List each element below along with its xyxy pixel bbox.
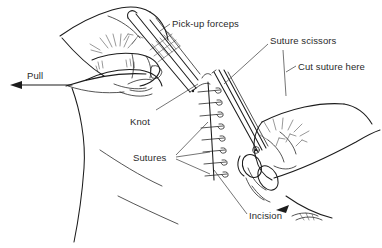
pull-label: Pull bbox=[27, 70, 43, 81]
pull-arrow bbox=[10, 81, 72, 89]
knot-label: Knot bbox=[130, 116, 150, 127]
suture-scissors bbox=[212, 70, 282, 194]
suture-removal-illustration: Pull bbox=[0, 0, 382, 248]
incision-with-sutures bbox=[194, 74, 228, 180]
leader-suture-scissors bbox=[224, 44, 268, 84]
incision-line bbox=[208, 82, 214, 180]
hand-hair-texture bbox=[90, 34, 143, 53]
cut-marker-vertical bbox=[283, 50, 286, 96]
right-hand-holding-scissors bbox=[238, 104, 380, 202]
cut-suture-here-label: Cut suture here bbox=[298, 61, 365, 72]
incision-label: Incision bbox=[249, 210, 282, 221]
skin-fold-left bbox=[66, 74, 152, 93]
leader-incision bbox=[214, 170, 247, 214]
leader-sutures-3 bbox=[176, 159, 210, 174]
lower-right-detail-arrow bbox=[276, 196, 332, 220]
right-hand-hair-texture bbox=[260, 118, 309, 146]
sutures-label: Sutures bbox=[133, 152, 167, 163]
leader-sutures-1 bbox=[176, 122, 208, 155]
suture-scissors-label: Suture scissors bbox=[270, 35, 337, 46]
label-leader-lines bbox=[156, 24, 296, 214]
pick-up-forceps-label: Pick-up forceps bbox=[172, 18, 239, 29]
leader-sutures-2 bbox=[176, 152, 210, 157]
leader-cut-suture-here bbox=[286, 66, 296, 72]
leader-knot bbox=[156, 84, 198, 110]
